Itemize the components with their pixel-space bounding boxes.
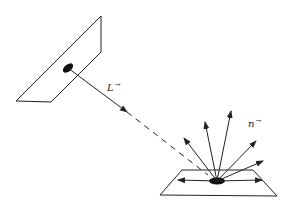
- vector-arrow-symbol: →: [255, 117, 261, 125]
- source-patch: [16, 16, 101, 102]
- incident-vector-label: L→: [107, 82, 121, 93]
- reflected-ray: [184, 138, 217, 181]
- incident-dashed-line: [127, 112, 208, 175]
- incident-label-text: L: [107, 82, 114, 93]
- source-parallelogram: [16, 16, 101, 102]
- incident-vector: [68, 68, 208, 175]
- vector-arrow-symbol: →: [115, 81, 121, 89]
- reflected-ray: [217, 141, 256, 181]
- reflection-label: n→: [248, 118, 261, 129]
- reflection-label-text: n: [248, 118, 254, 129]
- reflected-ray: [217, 161, 263, 181]
- reflected-ray: [205, 122, 217, 181]
- diffuse-reflection-diagram: [0, 0, 287, 211]
